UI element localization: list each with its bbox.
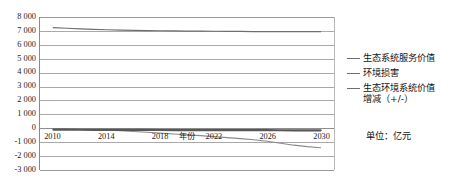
- y-tick-label: 2 000: [17, 96, 36, 104]
- y-axis-tick-labels: 8 0007 0006 0005 0004 0003 0002 0001 000…: [0, 0, 38, 178]
- x-tick-label: 2018: [152, 133, 169, 141]
- y-tick-label: 1 000: [17, 110, 36, 118]
- legend-item[interactable]: 生态环境系统价值增减（+/-）: [347, 82, 464, 104]
- legend-line-icon: [347, 55, 360, 64]
- y-tick-label: 0: [32, 124, 36, 132]
- y-tick-label: -1 000: [15, 138, 36, 146]
- y-tick-label: 5 000: [17, 55, 36, 63]
- y-tick-label: 4 000: [17, 68, 36, 76]
- legend-item-label: 生态系统服务价值: [363, 52, 435, 63]
- x-tick-label: 2014: [98, 133, 115, 141]
- legend-item-label-line2: 增减（+/-）: [363, 93, 435, 104]
- legend-item[interactable]: 生态系统服务价值: [347, 52, 464, 64]
- x-tick-label: 2022: [206, 133, 223, 141]
- x-tick-label: 2030: [313, 133, 330, 141]
- legend-item-label: 环境损害: [363, 67, 399, 78]
- x-axis-tick-labels: 201020142018202220262030年份: [39, 0, 335, 178]
- y-tick-label: -3 000: [15, 166, 36, 174]
- x-tick-label: 2026: [259, 133, 276, 141]
- legend-line-icon: [347, 85, 360, 94]
- legend-item-label: 生态环境系统价值增减（+/-）: [363, 82, 435, 104]
- legend-line-icon: [347, 70, 360, 79]
- y-tick-label: 3 000: [17, 82, 36, 90]
- plot-wrapper: 8 0007 0006 0005 0004 0003 0002 0001 000…: [0, 0, 345, 178]
- ecosystem-value-line-chart: 8 0007 0006 0005 0004 0003 0002 0001 000…: [0, 0, 464, 178]
- y-tick-label: 7 000: [17, 27, 36, 35]
- x-axis-title: 年份: [179, 132, 195, 140]
- chart-legend: 生态系统服务价值环境损害生态环境系统价值增减（+/-）: [347, 52, 464, 108]
- unit-note: 单位：亿元: [366, 130, 411, 141]
- y-tick-label: -2 000: [15, 152, 36, 160]
- y-tick-label: 6 000: [17, 41, 36, 49]
- x-tick-label: 2010: [44, 133, 61, 141]
- y-tick-label: 8 000: [17, 13, 36, 21]
- legend-item[interactable]: 环境损害: [347, 67, 464, 79]
